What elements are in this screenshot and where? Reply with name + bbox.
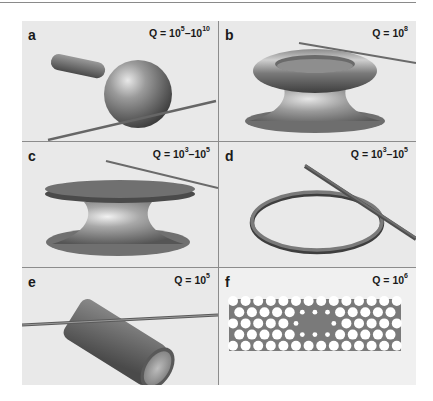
divider-horizontal-1 — [22, 141, 416, 142]
top-rule — [0, 2, 416, 3]
panel-a-microsphere: a Q = 105–1010 — [22, 21, 218, 141]
divider-vertical — [218, 21, 219, 385]
q-factor-label: Q = 108 — [372, 27, 408, 39]
figure-grid: a Q = 105–1010 — [22, 21, 416, 385]
divider-horizontal-2 — [22, 267, 416, 268]
panel-letter: e — [28, 274, 36, 290]
q-factor-label: Q = 103–105 — [153, 148, 210, 160]
microtoroid-illustration — [219, 21, 416, 141]
q-factor-label: Q = 105–1010 — [149, 27, 210, 39]
panel-letter: c — [28, 148, 36, 164]
panel-letter: a — [28, 27, 36, 43]
q-factor-label: Q = 103–105 — [351, 148, 408, 160]
panel-d-microring: d Q = 103–105 — [219, 142, 416, 267]
panel-f-photonic-crystal: f Q = 106 — [219, 268, 416, 385]
microdisk-illustration — [22, 142, 218, 267]
microsphere-illustration — [22, 21, 218, 141]
q-factor-label: Q = 105 — [174, 274, 210, 286]
panel-letter: b — [225, 27, 234, 43]
panel-c-microdisk: c Q = 103–105 — [22, 142, 218, 267]
panel-e-capillary: e Q = 105 — [22, 268, 218, 385]
panel-letter: f — [225, 274, 230, 290]
q-factor-label: Q = 106 — [372, 274, 408, 286]
panel-letter: d — [225, 148, 234, 164]
microring-illustration — [219, 142, 416, 267]
panel-b-microtoroid: b Q = 108 — [219, 21, 416, 141]
